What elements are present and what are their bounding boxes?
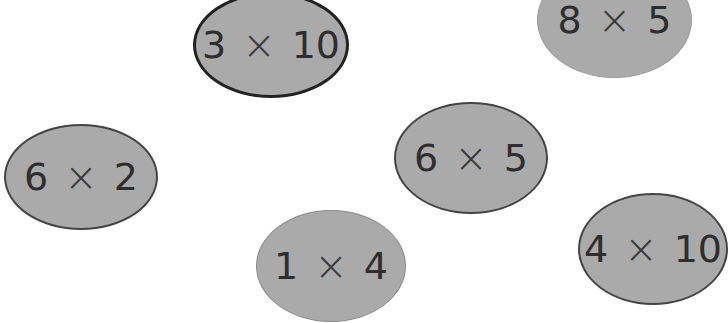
multiply-sign: ×	[598, 0, 632, 43]
bubble-4x10[interactable]: 4 × 10	[578, 193, 728, 305]
bubble-6x2[interactable]: 6 × 2	[4, 124, 158, 230]
bubble-left-operand: 8	[558, 0, 582, 42]
bubble-right-operand: 10	[674, 227, 722, 271]
bubble-right-operand: 10	[292, 23, 340, 67]
bubble-left-operand: 4	[584, 227, 608, 271]
multiply-sign: ×	[64, 154, 98, 200]
multiply-sign: ×	[314, 243, 348, 289]
bubble-1x4[interactable]: 1 × 4	[256, 210, 406, 322]
multiply-sign: ×	[624, 226, 658, 272]
bubble-3x10[interactable]: 3 × 10	[193, 0, 349, 98]
bubble-8x5[interactable]: 8 × 5	[537, 0, 692, 78]
bubble-left-operand: 6	[414, 136, 438, 180]
bubble-6x5[interactable]: 6 × 5	[394, 102, 548, 214]
bubble-right-operand: 5	[647, 0, 671, 42]
multiply-sign: ×	[242, 22, 276, 68]
bubble-left-operand: 1	[274, 244, 298, 288]
bubble-right-operand: 4	[364, 244, 388, 288]
bubble-right-operand: 2	[114, 155, 138, 199]
multiply-sign: ×	[454, 135, 488, 181]
bubble-left-operand: 6	[24, 155, 48, 199]
bubble-left-operand: 3	[202, 23, 226, 67]
bubble-right-operand: 5	[504, 136, 528, 180]
